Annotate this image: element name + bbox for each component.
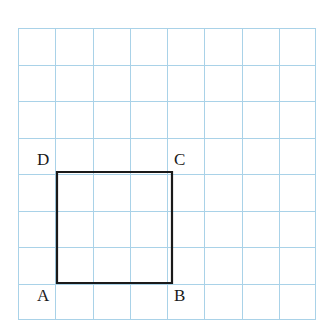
grid-line-horizontal [18, 138, 316, 139]
graph-paper-grid [18, 28, 316, 320]
grid-line-horizontal [18, 284, 316, 285]
vertex-label-a: A [37, 287, 49, 304]
grid-line-horizontal [18, 319, 316, 320]
vertex-label-b: B [174, 287, 185, 304]
grid-line-horizontal [18, 211, 316, 212]
grid-line-horizontal [18, 247, 316, 248]
grid-line-horizontal [18, 174, 316, 175]
grid-line-horizontal [18, 28, 316, 29]
grid-line-horizontal [18, 65, 316, 66]
grid-line-horizontal [18, 101, 316, 102]
vertex-label-d: D [37, 151, 49, 168]
vertex-label-c: C [174, 151, 185, 168]
figure-canvas: D C A B [0, 0, 332, 330]
